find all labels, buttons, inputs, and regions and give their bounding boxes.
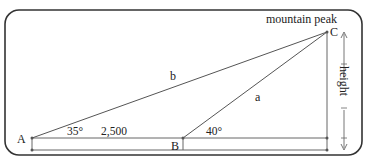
mountain-peak-label: mountain peak [266,12,337,26]
side-a-line [183,32,327,138]
point-c-label: C [330,25,338,39]
distance-ab-label: 2,500 [101,125,127,138]
point-a-label: A [17,132,26,146]
foot-dot [326,137,329,140]
diagram-frame [5,10,362,155]
point-a-dot [31,137,34,140]
side-b-label: b [170,69,176,83]
side-a-label: a [255,90,261,104]
angle-a-label: 35° [67,125,84,137]
point-b-dot [182,137,185,140]
angle-b-label: 40° [206,125,223,137]
triangulation-diagram: height mountain peak C A B b a 35° 2,500… [0,0,367,162]
point-c-dot [326,31,329,34]
height-label: height [337,66,351,97]
point-b-label: B [171,139,179,153]
side-b-line [32,32,327,138]
point-a-lower-dot [31,149,34,152]
foot-lower-dot [326,149,329,152]
